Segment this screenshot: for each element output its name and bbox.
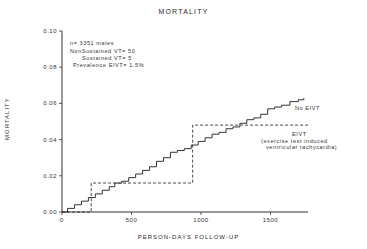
y-tick-label: 0.02 — [43, 173, 57, 179]
legend-eivt-desc-2: ventricular tachycardia) — [266, 144, 337, 150]
legend-eivt: EIVT — [292, 131, 307, 137]
x-tick-label: 1000 — [193, 217, 209, 223]
annotation-nonsustained: NonSustained VT= 50 — [70, 48, 135, 54]
y-tick-label: 0.00 — [43, 209, 57, 215]
no-eivt-curve — [62, 98, 304, 212]
y-tick-label: 0.10 — [43, 28, 57, 34]
plot-area: 0.000.020.040.060.080.10050010001500n= 3… — [0, 0, 367, 249]
annotation-sustained: Sustained VT= 5 — [82, 55, 132, 61]
annotation-prevalence: Prevalence EIVT= 1.5% — [73, 62, 144, 68]
annotation-n: n= 3351 males — [70, 40, 114, 46]
x-tick-label: 500 — [126, 217, 138, 223]
y-tick-label: 0.04 — [43, 137, 57, 143]
x-tick-label: 0 — [60, 217, 64, 223]
y-tick-label: 0.08 — [43, 64, 57, 70]
y-tick-label: 0.06 — [43, 100, 57, 106]
x-tick-label: 1500 — [263, 217, 279, 223]
legend-no-eivt: No EIVT — [295, 105, 320, 111]
